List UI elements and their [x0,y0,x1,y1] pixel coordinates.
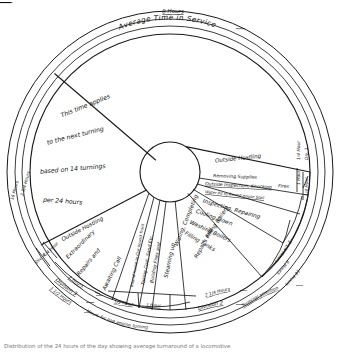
arc-label-right-quarter-hour: 1/4 Hour [296,140,301,160]
figure-canvas: 8 Hours Average Time in Service This tim… [0,0,342,355]
arc-label-right-1-hour: 1 Hour [296,169,301,185]
bottom-cell-line [108,291,196,296]
chart-title: Average Time in Service [0,0,272,54]
top-labels: 8 Hours Average Time in Service [0,0,272,54]
sector-label-water-pit: Water Pit to Round-house Stall [205,189,266,200]
center-note-line-3: based on 14 turnings [40,162,107,176]
arc-label-left-16-hours: 16 Hours [9,179,19,200]
sector-label-awaiting-call: Awaiting Call [100,255,123,292]
sector-label-repairs-and-2: Repairs and [75,247,102,277]
arc-label-left-1-5-hours: 1 1/2 Hours [0,0,91,312]
circular-time-chart: 8 Hours Average Time in Service This tim… [0,0,342,355]
arc-label-right-quarter-hour-2: 1/4 Hour [304,176,309,196]
arc-label-bottom-2-25-hours: 2 1/4 Hours [0,0,247,298]
center-note-line-4: per 24 hours [42,196,84,207]
center-note-line-2: to the next turning [46,125,105,147]
arc-label-left-2-75-hours: 2 3/4 Hours [19,170,31,197]
arc-label-right-8-hours: 8 Hours [0,0,290,283]
sector-label-outside-inspection-cont: Fires [278,183,290,189]
bottom-sector-labels: Steaming up Building Fires and Taking Co… [129,222,177,287]
sector-label-removing-supplies: Removing Supplies [213,173,258,180]
arc-label-bottom-1-hour: 1 Hour [146,302,162,308]
figure-caption: Distribution of the 24 hours of the day … [0,343,342,355]
band-arc-bl [55,262,100,294]
spoke-220deg [55,74,156,161]
center-note: This time applies to the next turning ba… [40,92,112,207]
band-arc-bottom [95,292,190,307]
center-hub [140,142,200,202]
arc-label-right-div1: Div. 1 [304,147,309,160]
arc-label-bottom-half-hour: 1/2 Hour [114,299,135,307]
left-sector-labels: Awaiting Call Repairs and Extraordinary … [60,215,123,292]
sector-label-steaming-up: Steaming up [163,242,177,279]
sector-label-outside-inspection: Outside Inspection, Knocking [205,181,272,190]
arc-label-left-division-3: Division 3 [0,0,94,302]
